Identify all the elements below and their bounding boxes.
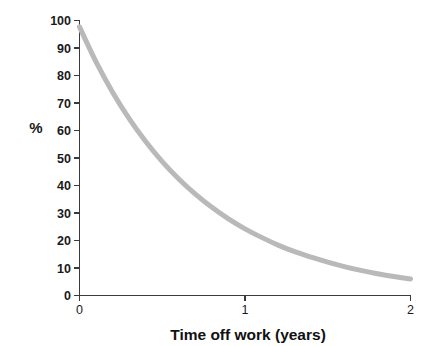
x-tick-label: 0	[76, 303, 83, 317]
y-axis-tick-labels: 100 90 80 70 60 50 40 30 20 10 0	[50, 14, 71, 303]
y-tick-label: 80	[57, 69, 71, 83]
y-tick-label: 10	[57, 262, 71, 276]
data-series-line	[80, 27, 411, 279]
y-tick-label: 30	[57, 207, 71, 221]
y-tick-label: 90	[57, 42, 71, 56]
y-tick-label: 100	[50, 14, 71, 28]
y-tick-label: 40	[57, 179, 71, 193]
x-axis-tick-labels: 0 1 2	[76, 303, 414, 317]
x-tick-label: 2	[407, 303, 414, 317]
x-axis-ticks	[80, 296, 411, 302]
y-tick-label: 0	[64, 289, 71, 303]
y-tick-label: 50	[57, 152, 71, 166]
y-axis-title: %	[29, 119, 42, 136]
y-axis-ticks	[74, 21, 80, 296]
x-tick-label: 1	[242, 303, 249, 317]
line-chart: 100 90 80 70 60 50 40 30 20 10 0 0 1 2 %…	[0, 0, 439, 346]
chart-container: 100 90 80 70 60 50 40 30 20 10 0 0 1 2 %…	[0, 0, 439, 346]
y-tick-label: 60	[57, 124, 71, 138]
y-tick-label: 20	[57, 234, 71, 248]
y-tick-label: 70	[57, 97, 71, 111]
x-axis-title: Time off work (years)	[170, 326, 326, 343]
